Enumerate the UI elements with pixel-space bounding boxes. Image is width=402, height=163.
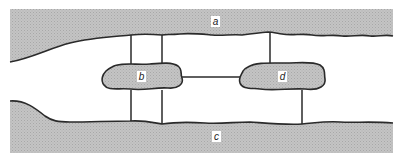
label-b: b [137, 71, 146, 82]
label-d: d [278, 71, 287, 82]
top-band-a [10, 9, 393, 62]
label-a: a [211, 16, 220, 27]
bottom-band-c [10, 101, 393, 153]
diagram-svg [0, 0, 402, 163]
diagram-canvas: a b d c [0, 0, 402, 163]
label-c: c [212, 131, 221, 142]
